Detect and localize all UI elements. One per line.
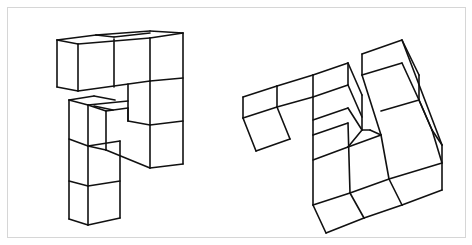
cube-edge	[313, 193, 350, 205]
cube-edge	[256, 139, 290, 151]
cube-edge	[277, 75, 313, 86]
cube-edge	[381, 135, 389, 179]
cube-edge	[243, 86, 277, 97]
cube-edge	[313, 63, 348, 75]
right-cube-figure	[0, 0, 472, 245]
cube-edge	[243, 118, 256, 151]
cube-edge	[313, 108, 348, 120]
cube-edge	[313, 85, 348, 97]
cube-edge	[362, 75, 381, 135]
cube-edge	[313, 147, 348, 160]
cube-edge	[277, 107, 290, 139]
cube-edge	[362, 40, 402, 54]
cube-edge	[381, 100, 419, 111]
cube-edge	[402, 190, 442, 205]
cube-edge	[364, 205, 402, 218]
cube-edge	[350, 193, 364, 218]
cube-edge	[348, 123, 350, 193]
cube-edge	[362, 63, 402, 75]
cube-edge	[402, 40, 442, 145]
cube-edge	[313, 123, 348, 135]
cube-edge	[243, 107, 277, 118]
cube-edge	[313, 205, 326, 233]
cube-edge	[389, 163, 442, 179]
cube-edge	[326, 218, 364, 233]
cube-edge	[350, 179, 389, 193]
cube-edge	[389, 179, 402, 205]
cube-edge	[277, 97, 313, 107]
cube-edge	[432, 130, 442, 163]
